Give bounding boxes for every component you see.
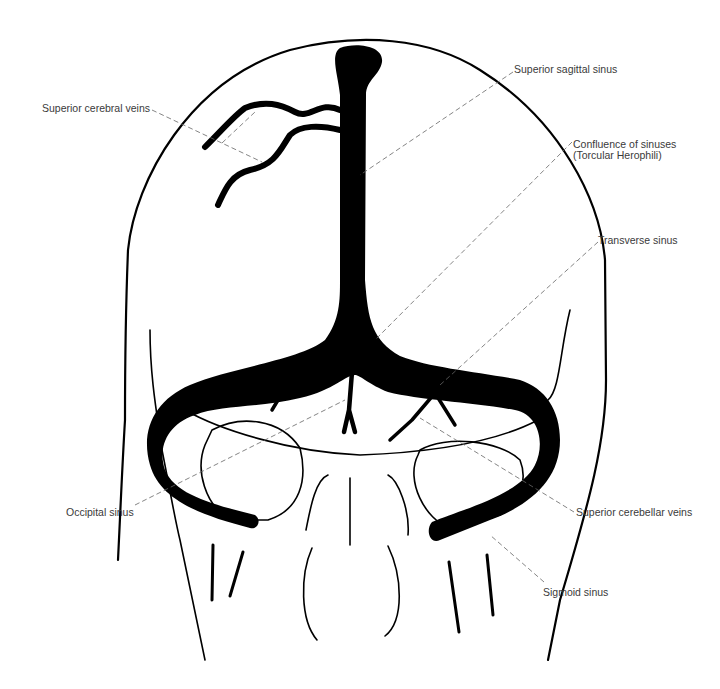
leader-confluence [375, 142, 572, 340]
leader-sigmoid-sinus [490, 535, 544, 582]
right-mastoid-outline [548, 310, 570, 400]
label-occipital-sinus: Occipital sinus [66, 507, 134, 518]
label-sigmoid-sinus: Sigmoid sinus [543, 587, 608, 598]
leader-transverse-sinus [440, 242, 598, 385]
superior-sagittal-sinus-shape [147, 45, 560, 541]
left-vert-line1 [212, 545, 213, 600]
left-vert-line2 [230, 552, 243, 596]
diagram-canvas: Superior cerebral veins Superior sagitta… [0, 0, 720, 689]
label-superior-cerebral-veins: Superior cerebral veins [42, 103, 150, 114]
superior-cerebral-vein-lower [218, 127, 340, 205]
skull-base-line [185, 410, 538, 455]
leader-superior-cerebral-veins [152, 110, 262, 162]
left-jaw-line [304, 548, 317, 640]
label-superior-sagittal-sinus: Superior sagittal sinus [514, 64, 617, 75]
leader-superior-sagittal-sinus [360, 72, 513, 175]
label-superior-cerebellar-veins: Superior cerebellar veins [576, 507, 692, 518]
label-transverse-sinus: Transverse sinus [598, 235, 678, 246]
label-confluence-line2: (Torcular Herophili) [573, 150, 662, 161]
right-vert-line1 [449, 562, 459, 632]
branch-center [344, 372, 355, 432]
right-nasal-line [388, 475, 408, 535]
right-jaw-line [385, 546, 399, 636]
right-vert-line2 [487, 555, 493, 615]
left-nasal-line [306, 475, 328, 530]
